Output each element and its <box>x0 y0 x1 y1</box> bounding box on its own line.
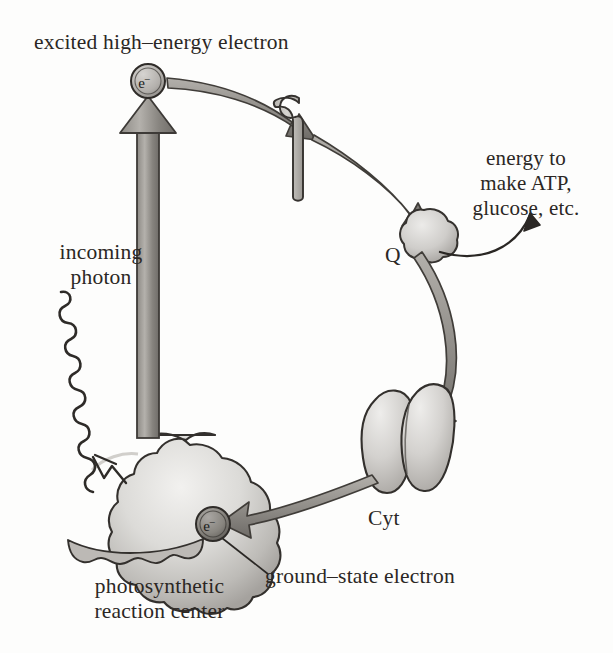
excited-electron: e– <box>131 64 165 98</box>
ground-state-electron: e– <box>196 507 230 541</box>
label-energy-to-make-atp: energy to make ATP, glucose, etc. <box>440 146 612 220</box>
plastoquinone-hook-molecule <box>274 96 303 201</box>
label-photosynthetic-reaction-center: photosynthetic reaction center <box>57 574 262 625</box>
label-q: Q <box>385 243 401 268</box>
photon-wave-arrow <box>60 292 126 492</box>
label-incoming-photon: incoming photon <box>36 240 166 291</box>
label-ground-state-electron: ground–state electron <box>265 564 455 589</box>
diagram-canvas: e– e– excited high–energy electron incom… <box>0 0 613 653</box>
cyt-complex <box>362 384 455 493</box>
photosynthesis-diagram-svg: e– e– <box>0 0 613 653</box>
label-excited-electron: excited high–energy electron <box>34 30 289 55</box>
label-cyt: Cyt <box>368 506 400 531</box>
